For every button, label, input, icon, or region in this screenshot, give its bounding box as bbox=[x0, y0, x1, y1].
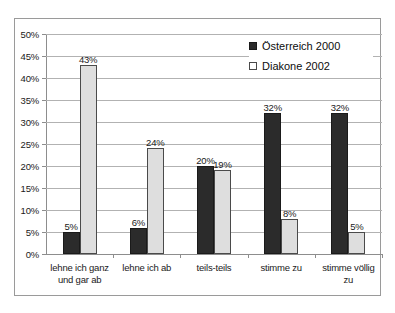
y-axis-tick bbox=[42, 188, 46, 189]
bar-0-2[interactable]: 20% bbox=[197, 166, 214, 254]
bar-1-0[interactable]: 43% bbox=[80, 65, 97, 254]
y-axis-label: 15% bbox=[21, 183, 39, 194]
bar-0-1[interactable]: 6% bbox=[130, 228, 147, 254]
bar-0-0[interactable]: 5% bbox=[63, 232, 80, 254]
bar-group: 5%43% bbox=[63, 34, 97, 254]
legend-item-oesterreich-2000: Österreich 2000 bbox=[249, 36, 373, 56]
bar-1-4[interactable]: 5% bbox=[348, 232, 365, 254]
bar-value-label: 32% bbox=[263, 102, 281, 113]
y-axis-tick bbox=[42, 34, 46, 35]
legend-label-series-0: Österreich 2000 bbox=[262, 40, 340, 52]
y-axis-label: 30% bbox=[21, 117, 39, 128]
bar-group: 6%24% bbox=[130, 34, 164, 254]
y-axis-tick bbox=[42, 122, 46, 123]
y-axis-tick bbox=[42, 56, 46, 57]
bar-value-label: 8% bbox=[283, 208, 296, 219]
x-axis-label: teils-teils bbox=[180, 262, 247, 274]
y-axis-label: 0% bbox=[26, 249, 39, 260]
bar-1-1[interactable]: 24% bbox=[147, 148, 164, 254]
bar-value-label: 43% bbox=[79, 54, 97, 65]
gridline bbox=[46, 254, 382, 255]
bar-value-label: 32% bbox=[331, 102, 349, 113]
x-axis-tick bbox=[315, 254, 316, 258]
bar-1-3[interactable]: 8% bbox=[281, 219, 298, 254]
y-axis-label: 40% bbox=[21, 73, 39, 84]
x-axis-label: stimme völligzu bbox=[315, 262, 382, 286]
x-axis-tick bbox=[382, 254, 383, 258]
x-axis-tick bbox=[248, 254, 249, 258]
bar-0-3[interactable]: 32% bbox=[264, 113, 281, 254]
y-axis-tick bbox=[42, 144, 46, 145]
bar-value-label: 20% bbox=[196, 155, 214, 166]
x-axis-label: stimme zu bbox=[248, 262, 315, 274]
y-axis-tick bbox=[42, 254, 46, 255]
bar-value-label: 5% bbox=[350, 221, 363, 232]
y-axis-label: 10% bbox=[21, 205, 39, 216]
bar-group: 20%19% bbox=[197, 34, 231, 254]
legend-item-diakone-2002: Diakone 2002 bbox=[249, 56, 373, 76]
legend-label-series-1: Diakone 2002 bbox=[262, 60, 330, 72]
y-axis-tick bbox=[42, 166, 46, 167]
y-axis-label: 25% bbox=[21, 139, 39, 150]
y-axis-label: 20% bbox=[21, 161, 39, 172]
bar-value-label: 5% bbox=[64, 221, 77, 232]
chart-frame: 0%5%10%15%20%25%30%35%40%45%50% 5%43%6%2… bbox=[14, 18, 381, 296]
bar-value-label: 6% bbox=[132, 217, 145, 228]
legend-swatch-icon-series-1 bbox=[249, 62, 257, 70]
y-axis-label: 45% bbox=[21, 51, 39, 62]
bar-1-2[interactable]: 19% bbox=[214, 170, 231, 254]
x-axis-tick bbox=[180, 254, 181, 258]
y-axis-label: 35% bbox=[21, 95, 39, 106]
legend-swatch-icon-series-0 bbox=[249, 42, 257, 50]
bar-0-4[interactable]: 32% bbox=[331, 113, 348, 254]
y-axis-tick bbox=[42, 78, 46, 79]
bar-value-label: 19% bbox=[213, 159, 231, 170]
x-axis-label: lehne ich ab bbox=[113, 262, 180, 274]
y-axis-label: 5% bbox=[26, 227, 39, 238]
x-axis-label: lehne ich ganzund gar ab bbox=[46, 262, 113, 286]
y-axis-tick bbox=[42, 232, 46, 233]
bar-value-label: 24% bbox=[146, 137, 164, 148]
x-axis-tick bbox=[113, 254, 114, 258]
y-axis-label: 50% bbox=[21, 29, 39, 40]
y-axis-tick bbox=[42, 210, 46, 211]
y-axis-tick bbox=[42, 100, 46, 101]
chart-legend: Österreich 2000 Diakone 2002 bbox=[249, 36, 373, 76]
